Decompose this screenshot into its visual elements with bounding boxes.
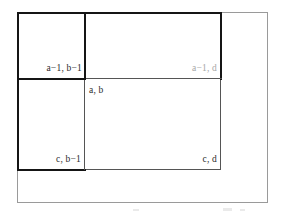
- label-bottom-left-cell: c, b−1: [20, 155, 81, 165]
- inner-vertical-divider-upper: [84, 12, 86, 80]
- inner-horizontal-divider-right: [86, 78, 222, 79]
- label-top-right-cell: a−1, d: [150, 64, 217, 74]
- thick-box-left-edge: [17, 12, 19, 171]
- inner-vertical-divider-lower: [84, 80, 85, 170]
- figure-canvas: a−1, b−1 a−1, d a, b c, b−1 c, d: [0, 0, 282, 217]
- artifact-speck-1: [133, 209, 139, 211]
- label-bottom-right-cell: c, d: [155, 155, 217, 165]
- label-center-corner: a, b: [89, 86, 104, 96]
- outer-frame: [17, 12, 268, 203]
- big-box-top-edge: [17, 12, 222, 14]
- big-box-bottom-edge: [86, 169, 221, 170]
- inner-horizontal-divider-left: [17, 78, 86, 80]
- artifact-speck-2: [223, 208, 232, 211]
- thick-box-bottom-edge: [17, 169, 86, 171]
- big-box-right-edge-lower: [220, 80, 221, 170]
- big-box-right-edge-upper: [220, 12, 222, 80]
- artifact-speck-3: [240, 209, 245, 211]
- label-top-left-cell: a−1, b−1: [20, 64, 82, 74]
